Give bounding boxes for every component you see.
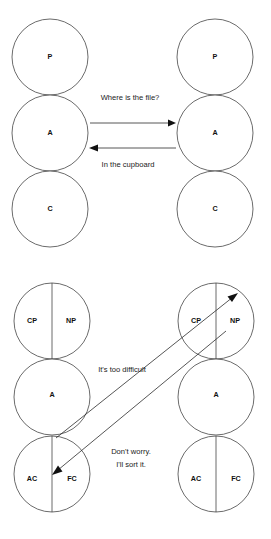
ego-label-nurturing-parent-right: NP — [230, 316, 240, 325]
crossed-label-response-line-2: I'll sort it. — [116, 460, 146, 469]
transaction-label-stimulus: Where is the file? — [101, 93, 160, 102]
transaction-label-response: In the cupboard — [102, 160, 155, 169]
left-person-ego-states: P A C — [12, 19, 88, 247]
right-person-ego-states: P A C — [177, 19, 253, 247]
transactional-analysis-canvas: P A C P A C Where is the file? — [0, 0, 271, 539]
ego-label-critical-parent-left: CP — [27, 316, 37, 325]
crossed-label-response-line-1: Don't worry. — [111, 447, 151, 456]
left-person-structural-ego-states: CP NP A AC FC — [14, 283, 90, 512]
ego-label-child-left: C — [47, 204, 52, 213]
crossed-label-stimulus: It's too difficult — [98, 365, 147, 374]
ego-label-adult-left: A — [47, 128, 52, 137]
ego-label-adult-right-structural: A — [213, 390, 218, 399]
ego-label-nurturing-parent-left: NP — [66, 316, 76, 325]
ego-label-adult-left-structural: A — [49, 390, 54, 399]
arrow-head-left — [89, 144, 98, 151]
complementary-transaction-diagram: P A C P A C Where is the file? — [12, 19, 253, 247]
ego-label-free-child-right: FC — [231, 474, 241, 483]
ego-label-parent-right: P — [213, 52, 218, 61]
ego-label-parent-left: P — [48, 52, 53, 61]
crossed-transaction-diagram: CP NP A AC FC CP NP A AC FC — [14, 283, 254, 512]
ego-label-child-right: C — [212, 204, 217, 213]
ego-label-adult-right: A — [212, 128, 217, 137]
transaction-arrow-stimulus[interactable] — [90, 120, 176, 127]
ego-label-adapted-child-left: AC — [27, 474, 37, 483]
right-person-structural-ego-states: CP NP A AC FC — [178, 283, 254, 512]
arrow-head-right — [168, 120, 176, 127]
transaction-arrow-response[interactable] — [89, 144, 176, 151]
ego-label-free-child-left: FC — [67, 474, 77, 483]
diagram-page: P A C P A C Where is the file? — [0, 0, 271, 539]
ego-label-adapted-child-right: AC — [191, 474, 201, 483]
